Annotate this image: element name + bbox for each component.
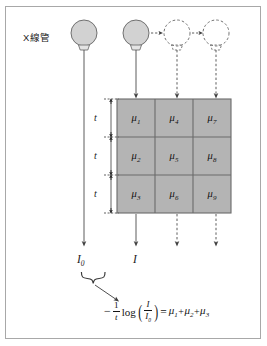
tube-1-group	[71, 20, 97, 244]
term-subscript: 1	[174, 311, 178, 319]
one-over-t-fraction: 1 t	[113, 301, 120, 322]
term-subscript: 3	[206, 311, 210, 319]
xray-attenuation-diagram: X線管 t t t μ1 μ4 μ7 μ2 μ5 μ8 μ3 μ6 μ9 I0 …	[0, 0, 267, 346]
formula-plus-2: +	[194, 306, 200, 317]
inner-den-subscript: 0	[148, 317, 151, 323]
formula-minus-sign: −	[104, 304, 111, 319]
grid-cell-r2c1: μ2	[116, 150, 156, 164]
grid-cell-r1c3: μ7	[192, 112, 232, 126]
grid-cell-r3c2: μ6	[154, 188, 194, 202]
mu-subscript: 4	[175, 118, 179, 126]
mu-subscript: 2	[137, 156, 141, 164]
thickness-label-2: t	[94, 150, 97, 161]
grid-cell-r3c3: μ9	[192, 188, 232, 202]
thickness-label-1: t	[94, 112, 97, 123]
right-paren: )	[154, 305, 158, 319]
mu-subscript: 8	[213, 156, 217, 164]
formula-term-1: μ1	[169, 304, 178, 319]
mu-subscript: 1	[137, 118, 141, 126]
flux-symbol: I	[133, 253, 137, 265]
log-function-name: log	[122, 306, 136, 318]
incident-intensity-label: I0	[77, 253, 85, 268]
grid-cell-r2c2: μ5	[154, 150, 194, 164]
grid-cell-r1c1: μ1	[116, 112, 156, 126]
mu-subscript: 7	[213, 118, 217, 126]
brace-group	[81, 272, 117, 300]
term-subscript: 2	[190, 311, 194, 319]
fraction-denominator: t	[114, 313, 119, 322]
flux-subscript: 0	[81, 259, 85, 268]
inner-numerator: I	[146, 300, 151, 309]
left-paren: (	[138, 305, 142, 319]
grid-cell-r3c1: μ3	[116, 188, 156, 202]
mu-subscript: 6	[175, 194, 179, 202]
formula-term-2: μ2	[184, 304, 193, 319]
mu-subscript: 5	[175, 156, 179, 164]
inner-denominator: I0	[144, 312, 152, 323]
formula-term-3: μ3	[200, 304, 209, 319]
thickness-label-3: t	[94, 188, 97, 199]
fraction-numerator: 1	[113, 301, 120, 310]
mu-subscript: 9	[213, 194, 217, 202]
transmitted-intensity-label: I	[133, 253, 137, 265]
grid-cell-r1c2: μ4	[154, 112, 194, 126]
xray-tube-label: X線管	[23, 30, 50, 44]
i-over-i0-fraction: I I0	[144, 300, 152, 323]
grid-cell-r2c3: μ8	[192, 150, 232, 164]
diagram-canvas	[0, 0, 267, 346]
equals-sign: =	[160, 306, 167, 318]
mu-subscript: 3	[137, 194, 141, 202]
beer-lambert-formula: − 1 t log ( I I0 ) = μ1 + μ2 + μ3	[104, 300, 209, 323]
